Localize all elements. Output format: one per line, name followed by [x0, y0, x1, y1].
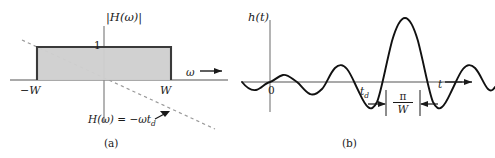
figure-container: |H(ω)| 1 −W W ω H(ω) = −ωtd (a)	[0, 0, 495, 158]
band-edge-negative-label: −W	[20, 85, 41, 96]
origin-label: 0	[268, 85, 275, 96]
panel-a-magnitude-response: |H(ω)| 1 −W W ω H(ω) = −ωtd (a)	[0, 0, 240, 158]
phase-equation-main: H(ω) = −ωt	[88, 113, 151, 125]
spacing-denominator: W	[390, 103, 416, 116]
phase-equation-subscript: d	[151, 119, 156, 128]
peak-time-label: td	[360, 86, 369, 100]
zero-crossing-spacing-label: π W	[390, 90, 416, 116]
time-arrow-head	[464, 79, 472, 85]
time-axis-label: t	[438, 79, 442, 90]
panel-a-caption: (a)	[104, 137, 118, 149]
panel-b-impulse-response: h(t) 0 td t π W (b)	[240, 0, 495, 158]
panel-b-plot	[240, 0, 495, 158]
band-edge-positive-label: W	[160, 85, 171, 96]
spacing-arrow-right-head	[420, 101, 428, 107]
amplitude-tick-label: 1	[94, 40, 101, 51]
peak-time-subscript: d	[364, 91, 369, 100]
omega-arrow-head	[214, 68, 222, 74]
spacing-numerator: π	[390, 90, 416, 102]
panel-b-caption: (b)	[342, 137, 357, 149]
spacing-arrow-left-head	[378, 101, 386, 107]
amplitude-axis-label: h(t)	[248, 12, 269, 24]
passband-fill	[37, 47, 171, 80]
magnitude-axis-label: |H(ω)|	[106, 12, 142, 24]
omega-axis-label: ω	[186, 67, 195, 78]
phase-equation-label: H(ω) = −ωtd	[88, 114, 156, 128]
